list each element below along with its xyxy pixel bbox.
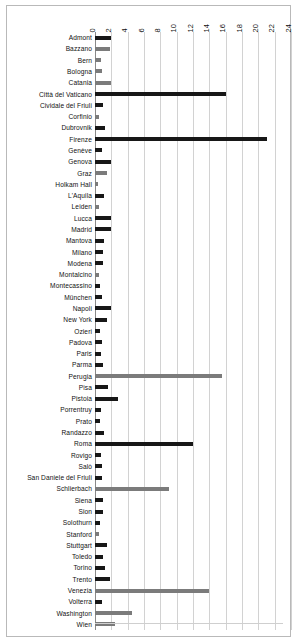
category-label: Montecassino [50, 282, 92, 289]
x-tick-label: 24 [284, 24, 292, 32]
category-label: Genova [68, 158, 92, 165]
bar [95, 442, 193, 446]
category-label: L'Aquila [68, 192, 92, 199]
x-tick: 24 [291, 10, 292, 32]
bar [95, 408, 101, 412]
category-label: Dubrovnik [61, 124, 92, 131]
bar [95, 340, 102, 344]
category-label: Pistoia [72, 395, 93, 402]
bar [95, 295, 102, 299]
bar [95, 521, 100, 525]
x-tick: 20 [258, 10, 259, 32]
category-label: Bologna [67, 68, 92, 75]
x-tick-label: 10 [170, 24, 178, 32]
bar [95, 419, 100, 423]
category-label: Firenze [69, 136, 92, 143]
category-label: Pisa [79, 384, 92, 391]
bar [95, 487, 169, 491]
bar [95, 47, 110, 51]
x-tick-label: 20 [251, 24, 259, 32]
category-label: Milano [72, 249, 92, 256]
category-label: Padova [69, 339, 92, 346]
category-label: Volterra [68, 598, 92, 605]
bottom-rule [95, 623, 283, 624]
x-tick-label: 22 [268, 24, 276, 32]
bar [95, 385, 108, 389]
bar [95, 453, 101, 457]
category-label: Città del Vaticano [39, 91, 92, 98]
gridline-6 [144, 32, 145, 630]
category-label: Admont [69, 34, 92, 41]
category-label: Stanford [66, 531, 92, 538]
bar [95, 115, 99, 119]
gridline-18 [242, 32, 243, 630]
category-label: Prato [76, 418, 92, 425]
gridline-22 [275, 32, 276, 630]
bar [95, 239, 104, 243]
category-label: Genève [68, 147, 92, 154]
bar [95, 431, 104, 435]
bar [95, 600, 102, 604]
bar [95, 577, 110, 581]
bar [95, 555, 103, 559]
category-label: Toledo [72, 553, 92, 560]
category-label: Washington [56, 610, 92, 617]
category-label: Salò [78, 463, 92, 470]
gridline-8 [160, 32, 161, 630]
bar [95, 160, 111, 164]
category-label: Bazzano [66, 45, 92, 52]
bar [95, 363, 103, 367]
bar [95, 227, 111, 231]
category-label: Randazzo [62, 429, 93, 436]
x-tick: 16 [226, 10, 227, 32]
bar [95, 216, 111, 220]
x-tick: 10 [177, 10, 178, 32]
category-label: Napoli [73, 305, 92, 312]
x-tick-label: 14 [202, 24, 210, 32]
bar [95, 261, 103, 265]
bar [95, 306, 111, 310]
bar [95, 69, 102, 73]
bar [95, 284, 100, 288]
category-label: Modena [68, 260, 92, 267]
gridline-14 [209, 32, 210, 630]
category-label: Perugia [69, 373, 92, 380]
category-label: Schlierbach [56, 485, 92, 492]
category-label: Wien [77, 621, 92, 628]
category-label: Madrid [71, 226, 92, 233]
gridline-4 [128, 32, 129, 630]
category-label: Sion [78, 508, 92, 515]
y-axis-category-labels: AdmontBazzanoBernBolognaCataniaCittà del… [7, 32, 92, 630]
x-tick: 22 [275, 10, 276, 32]
gridline-16 [226, 32, 227, 630]
bar [95, 589, 209, 593]
category-label: Roma [74, 440, 92, 447]
category-label: Corfinio [68, 113, 92, 120]
x-tick-label: 18 [235, 24, 243, 32]
category-label: Montalcino [59, 271, 92, 278]
plot-area [95, 32, 291, 630]
category-label: Bern [78, 57, 92, 64]
category-label: Rovigo [71, 452, 92, 459]
category-label: Siena [75, 497, 92, 504]
category-label: New York [63, 316, 92, 323]
x-tick: 0 [95, 10, 96, 32]
category-label: Ozieri [74, 328, 92, 335]
category-label: Venezia [68, 587, 92, 594]
category-label: Torino [73, 564, 92, 571]
bar [95, 498, 103, 502]
gridline-12 [193, 32, 194, 630]
chart-frame: 024681012141618202224 AdmontBazzanoBernB… [6, 5, 291, 637]
gridline-24 [291, 32, 292, 630]
bar [95, 92, 226, 96]
category-label: Holkam Hall [55, 181, 92, 188]
category-label: München [64, 294, 92, 301]
x-tick: 8 [160, 10, 161, 32]
bar [95, 374, 222, 378]
bar [95, 352, 101, 356]
bar [95, 397, 118, 401]
bar [95, 171, 107, 175]
bar [95, 464, 102, 468]
x-tick: 12 [193, 10, 194, 32]
bar [95, 250, 103, 254]
